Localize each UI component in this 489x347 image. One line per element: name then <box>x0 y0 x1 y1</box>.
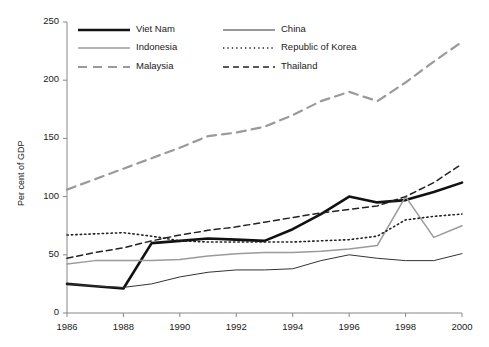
y-axis-tick-label: 50 <box>21 248 59 259</box>
series-line-viet-nam <box>67 183 462 289</box>
x-axis-tick-label: 1988 <box>101 321 145 332</box>
x-axis-tick-label: 1990 <box>158 321 202 332</box>
y-axis-tick-label: 150 <box>21 131 59 142</box>
legend-label-viet-nam: Viet Nam <box>136 23 175 34</box>
legend-label-republic-of-korea: Republic of Korea <box>281 41 357 52</box>
x-axis-tick-label: 1986 <box>45 321 89 332</box>
x-axis-tick-label: 1996 <box>327 321 371 332</box>
x-axis-tick-label: 1992 <box>214 321 258 332</box>
x-axis-tick-label: 2000 <box>440 321 484 332</box>
x-axis-tick-label: 1994 <box>271 321 315 332</box>
legend-label-thailand: Thailand <box>281 60 317 71</box>
y-axis-tick-label: 0 <box>21 306 59 317</box>
series-line-indonesia <box>67 197 462 265</box>
y-axis-tick-label: 250 <box>21 15 59 26</box>
series-line-malaysia <box>67 42 462 190</box>
y-axis-tick-label: 200 <box>21 73 59 84</box>
legend-label-malaysia: Malaysia <box>136 60 174 71</box>
line-chart-plot <box>0 0 489 347</box>
series-line-republic-of-korea <box>67 214 462 242</box>
y-axis-tick-label: 100 <box>21 190 59 201</box>
chart-figure: Per cent of GDP 050100150200250198619881… <box>0 0 489 347</box>
series-line-thailand <box>67 164 462 258</box>
x-axis-tick-label: 1998 <box>384 321 428 332</box>
legend-label-indonesia: Indonesia <box>136 41 177 52</box>
legend-label-china: China <box>281 23 306 34</box>
